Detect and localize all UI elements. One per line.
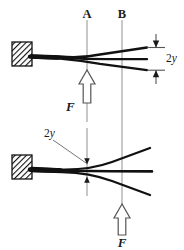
gridline-a-label: A <box>82 7 91 21</box>
beam-deflection-figure: A B F <box>0 0 184 250</box>
hatch-rect-top <box>12 42 32 66</box>
fixed-support-block-bottom <box>12 155 32 179</box>
force-label-top: F <box>65 99 75 114</box>
beam-root-top <box>30 57 58 58</box>
beam-root-bottom <box>30 170 60 171</box>
figure-root: A B F <box>0 0 184 250</box>
hatch-rect-bottom <box>12 155 32 179</box>
fixed-support-block-top <box>12 42 32 66</box>
gridline-b-label: B <box>118 7 126 21</box>
force-label-bottom: F <box>117 235 127 250</box>
deflection-label-bottom: 2y <box>44 127 56 140</box>
deflection-label-top: 2y <box>166 52 178 65</box>
